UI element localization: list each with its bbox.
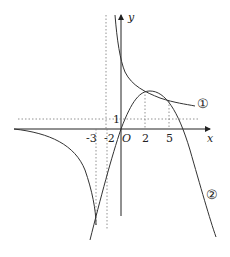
curve-1-right <box>115 15 195 106</box>
curve-1-label: ① <box>197 97 209 110</box>
curve-2-label: ② <box>206 188 218 201</box>
tick-x-neg3: -3 <box>86 133 97 144</box>
y-axis-label: y <box>128 12 134 23</box>
graph-svg <box>0 0 230 257</box>
curve-2 <box>90 91 216 240</box>
curve-1-left <box>14 129 96 225</box>
tick-x-5: 5 <box>166 133 173 144</box>
tick-x-2: 2 <box>142 133 149 144</box>
dotted-guides <box>18 15 200 230</box>
x-axis-label: x <box>207 133 213 144</box>
tick-y-1: 1 <box>113 114 120 125</box>
tick-x-neg2: -2 <box>104 133 115 144</box>
function-graph: y x O -3 -2 2 5 1 ① ② <box>0 0 230 257</box>
origin-label: O <box>122 133 131 144</box>
